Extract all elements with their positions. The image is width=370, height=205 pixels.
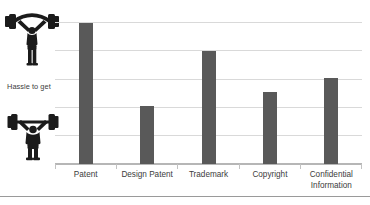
label-line-2: Information [302, 181, 361, 192]
bar-confidential-information [324, 78, 338, 164]
axis-tick [300, 164, 301, 169]
bar-slot [301, 22, 362, 164]
weightlifter-high-icon [4, 4, 60, 68]
label-line-1: Copyright [252, 170, 287, 179]
axis-tick [239, 164, 240, 169]
category-label-trademark: Trademark [178, 170, 239, 191]
bar-patent [79, 23, 93, 164]
category-labels: Patent Design Patent Trademark Copyright… [55, 170, 362, 191]
axis-tick [55, 164, 56, 169]
bar-copyright [263, 92, 277, 164]
plot-area [55, 22, 362, 164]
axis-tick [361, 164, 362, 169]
bar-chart: Hassle to get [0, 0, 370, 205]
bar-slot [178, 22, 239, 164]
axis-ticks [55, 164, 362, 169]
label-line-1: Patent [74, 170, 98, 179]
category-label-design-patent: Design Patent [116, 170, 177, 191]
category-label-confidential-information: Confidential Information [301, 170, 362, 191]
bar-slot [55, 22, 116, 164]
category-label-copyright: Copyright [239, 170, 300, 191]
y-axis-caption: Hassle to get [7, 82, 59, 91]
category-label-patent: Patent [55, 170, 116, 191]
weightlifter-low-icon [6, 106, 60, 162]
bar-design-patent [140, 106, 154, 164]
label-line-1: Trademark [189, 170, 228, 179]
bar-slot [239, 22, 300, 164]
y-axis-annotation: Hassle to get [0, 0, 56, 170]
footer-rule [0, 196, 370, 197]
axis-tick [116, 164, 117, 169]
bar-series [55, 22, 362, 164]
category-axis: Patent Design Patent Trademark Copyright… [55, 164, 362, 204]
axis-tick [177, 164, 178, 169]
label-line-1: Design Patent [121, 170, 172, 179]
bar-slot [116, 22, 177, 164]
bar-trademark [202, 51, 216, 164]
label-line-1: Confidential [310, 170, 353, 179]
